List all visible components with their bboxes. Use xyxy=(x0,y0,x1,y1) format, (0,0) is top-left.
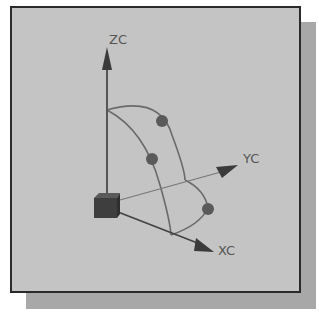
z-axis-label: ZC xyxy=(109,32,127,47)
y-axis-label: YC xyxy=(242,151,259,166)
sphere-handle-icon[interactable] xyxy=(156,115,168,127)
z-axis-arrow-icon[interactable] xyxy=(102,47,112,70)
x-axis-label: XC xyxy=(218,243,235,258)
x-axis-arrow-icon[interactable] xyxy=(194,238,214,252)
origin-cube-icon[interactable] xyxy=(94,193,120,218)
y-axis-arrow-icon[interactable] xyxy=(216,165,238,178)
handle-spheres xyxy=(146,115,214,215)
y-axis-line xyxy=(120,170,228,200)
sphere-handle-icon[interactable] xyxy=(146,153,158,165)
wcs-triad: ZC YC XC xyxy=(0,0,319,315)
sphere-handle-icon[interactable] xyxy=(202,203,214,215)
rotation-arcs xyxy=(107,106,208,235)
